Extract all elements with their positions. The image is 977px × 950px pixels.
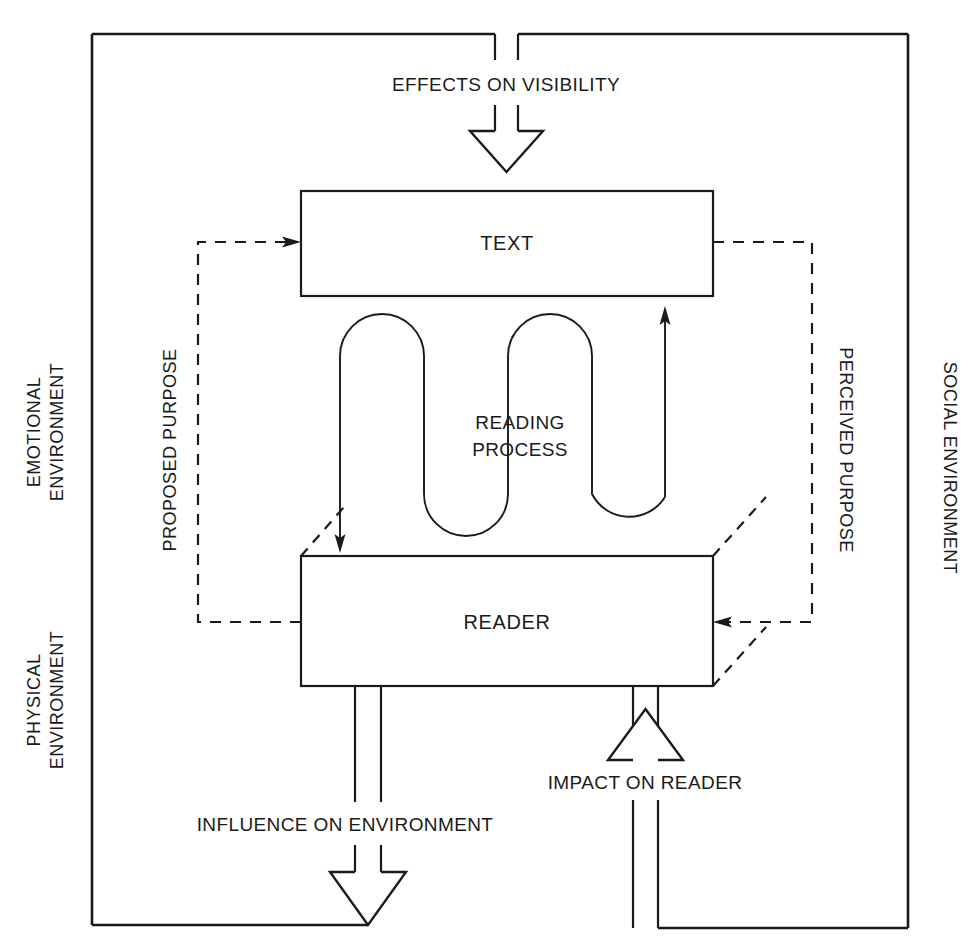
reader-box-label: READER: [464, 611, 551, 633]
proposed-purpose-dashed-path: [198, 242, 301, 622]
reader-depth-edge-top-right: [713, 497, 766, 556]
influence-on-environment-label: INFLUENCE ON ENVIRONMENT: [197, 814, 494, 835]
impact-on-reader-label: IMPACT ON READER: [548, 772, 743, 793]
effects-arrowhead-icon: [470, 131, 543, 172]
social-environment-label: SOCIAL ENVIRONMENT: [940, 362, 960, 574]
diagram-canvas: EFFECTS ON VISIBILITY TEXT READER READIN…: [0, 0, 977, 950]
perceived-purpose-dashed-path: [713, 242, 812, 622]
influence-arrowhead-icon: [330, 872, 406, 925]
emotional-environment-label-line2: ENVIRONMENT: [47, 363, 67, 502]
reading-process-label-line2: PROCESS: [472, 439, 568, 460]
physical-environment-label-line2: ENVIRONMENT: [47, 631, 67, 770]
perceived-purpose-label: PERCEIVED PURPOSE: [836, 347, 856, 553]
impact-arrowhead-icon: [608, 709, 683, 760]
physical-environment-label-line1: PHYSICAL: [24, 653, 44, 746]
reader-depth-edge-bottom-right: [713, 627, 766, 686]
effects-on-visibility-label: EFFECTS ON VISIBILITY: [392, 74, 620, 95]
text-box-label: TEXT: [480, 232, 534, 254]
reading-process-label-line1: READING: [475, 412, 564, 433]
proposed-purpose-label: PROPOSED PURPOSE: [160, 348, 180, 551]
reading-process-diagram: EFFECTS ON VISIBILITY TEXT READER READIN…: [0, 0, 977, 950]
reader-depth-edge-top-left: [301, 507, 344, 556]
emotional-environment-label-line1: EMOTIONAL: [24, 377, 44, 488]
